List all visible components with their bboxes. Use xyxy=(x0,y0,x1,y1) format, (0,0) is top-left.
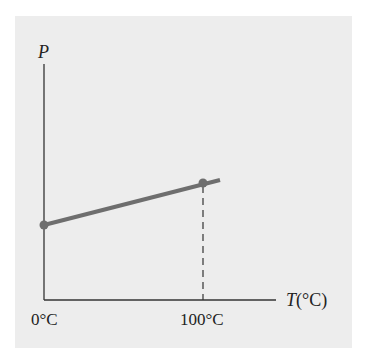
point-0c xyxy=(40,221,49,230)
pressure-line xyxy=(44,180,220,225)
x-tick-100c: 100°C xyxy=(180,310,224,329)
pressure-temperature-diagram: P 0°C 100°C T(°C) xyxy=(0,0,366,360)
x-axis-label: T(°C) xyxy=(286,290,327,311)
point-100c xyxy=(199,179,208,188)
x-tick-0c: 0°C xyxy=(31,310,58,329)
x-axis-unit: (°C) xyxy=(296,290,327,311)
y-axis-label: P xyxy=(37,42,49,62)
